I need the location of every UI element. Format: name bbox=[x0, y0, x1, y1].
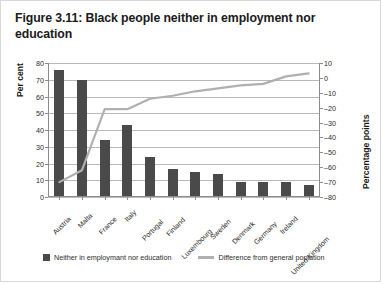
x-tick-mark bbox=[150, 197, 151, 200]
y-tick-label-right: –60 bbox=[324, 163, 336, 172]
y-tick-mark-left bbox=[45, 197, 48, 198]
plot-area: 01020304050607080 100–10–20–30–40–50–60–… bbox=[48, 63, 320, 197]
x-tick-mark bbox=[105, 197, 106, 200]
x-tick-mark bbox=[195, 197, 196, 200]
y-tick-mark-right bbox=[320, 182, 323, 183]
x-tick-mark bbox=[241, 197, 242, 200]
y-tick-mark-right bbox=[320, 123, 323, 124]
x-tick-mark bbox=[127, 197, 128, 200]
y-tick-label-left: 80 bbox=[36, 59, 44, 68]
plot-frame bbox=[48, 63, 320, 197]
y-tick-label-left: 20 bbox=[36, 159, 44, 168]
y-tick-label-right: –80 bbox=[324, 193, 336, 202]
x-tick-label: United Kingdom bbox=[326, 201, 367, 242]
legend-bar-label: Neither in employmant nor education bbox=[54, 253, 171, 262]
y-tick-mark-right bbox=[320, 93, 323, 94]
y-tick-mark-right bbox=[320, 108, 323, 109]
y-tick-label-right: –20 bbox=[324, 103, 336, 112]
y-tick-mark-right bbox=[320, 78, 323, 79]
y-tick-mark-right bbox=[320, 63, 323, 64]
x-tick-label: Malta bbox=[90, 201, 108, 219]
x-tick-mark bbox=[82, 197, 83, 200]
x-tick-label: Finland bbox=[182, 201, 204, 223]
x-tick-mark bbox=[263, 197, 264, 200]
y-axis-label-left: Per cent bbox=[15, 63, 25, 97]
y-tick-label-left: 30 bbox=[36, 142, 44, 151]
figure-container: Figure 3.11: Black people neither in emp… bbox=[0, 0, 381, 282]
x-tick-mark bbox=[286, 197, 287, 200]
x-tick-mark bbox=[309, 197, 310, 200]
y-tick-label-right: –40 bbox=[324, 133, 336, 142]
y-tick-label-right: 10 bbox=[324, 59, 332, 68]
y-tick-mark-right bbox=[320, 152, 323, 153]
y-tick-label-right: 0 bbox=[324, 73, 328, 82]
y-tick-label-left: 0 bbox=[40, 193, 44, 202]
legend-item-line: Difference from general poplation bbox=[198, 253, 324, 262]
x-tick-label: Italy bbox=[134, 201, 149, 216]
x-tick-mark bbox=[218, 197, 219, 200]
y-tick-label-left: 50 bbox=[36, 109, 44, 118]
y-axis-label-right: Percentage points bbox=[361, 115, 371, 190]
y-tick-label-right: –70 bbox=[324, 178, 336, 187]
y-tick-label-left: 70 bbox=[36, 75, 44, 84]
legend-item-bars: Neither in employmant nor education bbox=[43, 253, 171, 262]
legend-line-swatch-icon bbox=[198, 256, 214, 258]
chart-legend: Neither in employmant nor education Diff… bbox=[43, 253, 325, 262]
legend-bar-swatch-icon bbox=[43, 254, 50, 261]
y-tick-mark-right bbox=[320, 167, 323, 168]
legend-line-label: Difference from general poplation bbox=[218, 253, 324, 262]
x-tick-mark bbox=[173, 197, 174, 200]
x-tick-mark bbox=[59, 197, 60, 200]
y-tick-label-right: –50 bbox=[324, 148, 336, 157]
y-tick-label-right: –10 bbox=[324, 88, 336, 97]
gridline bbox=[48, 197, 320, 198]
y-tick-label-left: 40 bbox=[36, 126, 44, 135]
y-tick-label-right: –30 bbox=[324, 118, 336, 127]
y-tick-label-left: 10 bbox=[36, 176, 44, 185]
figure-title: Figure 3.11: Black people neither in emp… bbox=[15, 10, 345, 42]
y-tick-mark-right bbox=[320, 137, 323, 138]
y-tick-label-left: 60 bbox=[36, 92, 44, 101]
y-tick-mark-right bbox=[320, 197, 323, 198]
